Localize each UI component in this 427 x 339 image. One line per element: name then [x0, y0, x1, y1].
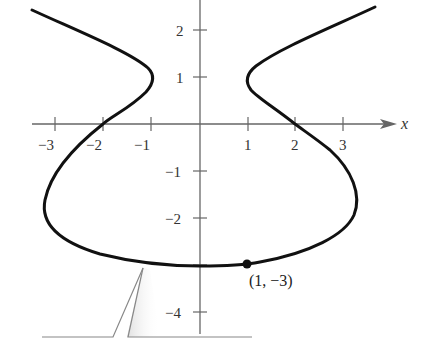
- x-axis-label: x: [400, 115, 408, 132]
- y-tick-label: −1: [165, 164, 181, 180]
- point-marker: [243, 260, 252, 269]
- x-tick-label: −3: [38, 137, 54, 153]
- y-tick-label: 2: [176, 23, 184, 39]
- callout-shadow: [127, 267, 160, 337]
- chart-canvas: x −3 −2 −1 1 2 3 2 1 −1 −2 −4 (1, −3): [0, 0, 427, 339]
- x-tick-label: 2: [291, 137, 299, 153]
- curve: [32, 7, 375, 266]
- y-tick-label: 1: [176, 70, 184, 86]
- y-tick-label: −4: [165, 305, 181, 321]
- callout-pointer-left: [42, 268, 143, 337]
- point-label: (1, −3): [249, 272, 293, 290]
- x-tick-label: 1: [244, 137, 252, 153]
- y-tick-label: −2: [165, 211, 181, 227]
- x-tick-label: −1: [134, 137, 150, 153]
- x-tick-label: 3: [339, 137, 347, 153]
- x-tick-label: −2: [86, 137, 102, 153]
